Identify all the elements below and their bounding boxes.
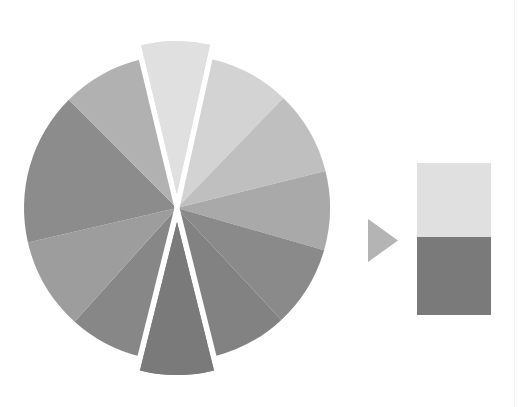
edge-divider — [514, 0, 515, 407]
bar-segment-top — [417, 163, 491, 237]
pie-chart — [24, 41, 330, 375]
triangle-right-icon — [368, 219, 398, 262]
stacked-bar — [417, 163, 491, 315]
pie-to-bar-figure — [0, 0, 519, 407]
bar-segment-bottom — [417, 237, 491, 315]
